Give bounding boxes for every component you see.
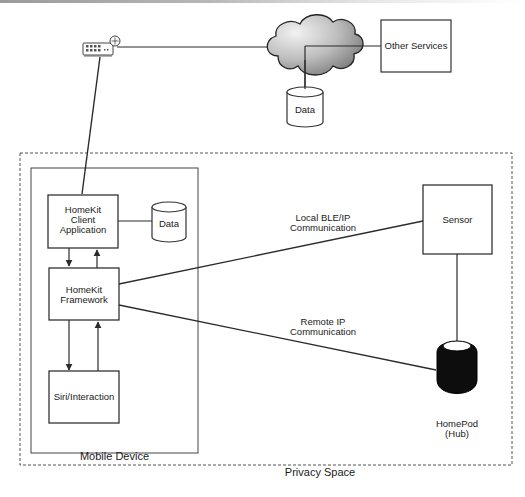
homepod-icon [437,341,477,394]
sensor-label: Sensor [423,214,492,226]
local-data-label: Data [152,218,186,230]
siri-label: Siri/Interaction [49,391,119,403]
cloud-data-label: Data [287,104,323,116]
mobile-device-label: Mobile Device [31,450,198,462]
other-services-label: Other Services [381,40,451,52]
cloud-icon [267,15,363,75]
remote-comm-label-2: Communication [283,326,363,338]
privacy-space-label: Privacy Space [280,466,360,478]
router-icon [83,36,120,56]
diagram-canvas: Other Services Data HomeKit Client Appli… [0,0,525,497]
framework-label-2: Framework [49,294,119,306]
homepod-label-2: (Hub) [422,428,492,440]
client-app-label-3: Application [48,224,118,236]
local-comm-label-2: Communication [283,222,363,234]
